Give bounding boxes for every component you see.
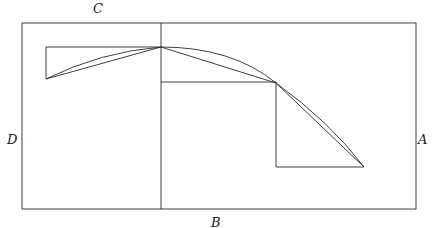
vertex-label-b: B [211, 216, 221, 228]
outer-rectangle [22, 23, 416, 209]
chord-apex-mid [161, 47, 276, 83]
figure-canvas [0, 0, 442, 228]
chord-left-apex [46, 47, 161, 79]
geometric-figure: C D A B [0, 0, 442, 228]
right-step-polyline [161, 82, 364, 167]
concave-curve [46, 47, 364, 167]
vertex-label-a: A [418, 133, 427, 146]
vertex-label-c: C [93, 2, 103, 15]
chord-mid-right [276, 83, 364, 167]
vertex-label-d: D [7, 133, 17, 146]
